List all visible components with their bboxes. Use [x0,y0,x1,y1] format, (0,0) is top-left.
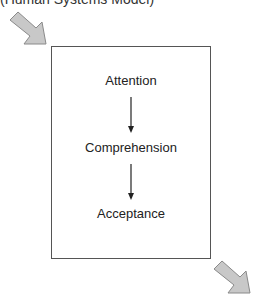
stage-comprehension: Comprehension [52,140,210,155]
down-arrow-icon [127,97,135,133]
output-arrow-icon [212,259,253,297]
stage-attention: Attention [52,73,210,88]
input-arrow-icon [8,10,50,48]
down-arrow-icon [127,164,135,200]
process-box: Attention Comprehension Acceptance [51,46,211,259]
figure-caption: (Human Systems Model) [0,0,154,7]
stage-acceptance: Acceptance [52,206,210,221]
